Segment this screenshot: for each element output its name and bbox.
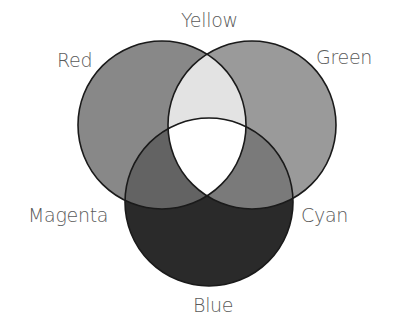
label-yellow: Yellow <box>181 11 238 30</box>
label-red: Red <box>57 51 92 70</box>
label-green: Green <box>316 48 372 67</box>
label-cyan: Cyan <box>301 206 348 225</box>
label-magenta: Magenta <box>28 206 108 225</box>
venn-diagram: Yellow Red Green Magenta Cyan Blue <box>0 0 402 329</box>
label-blue: Blue <box>193 296 233 315</box>
